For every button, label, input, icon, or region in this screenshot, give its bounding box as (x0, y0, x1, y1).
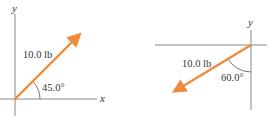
right-angle-label: 60.0° (221, 73, 244, 84)
left-magnitude-label: 10.0 lb (23, 50, 52, 61)
right-diagram (155, 30, 267, 110)
vector-diagrams (0, 0, 272, 123)
right-angle-arc (228, 59, 251, 73)
right-magnitude-label: 10.0 lb (182, 59, 211, 70)
left-y-axis-label: y (12, 3, 17, 14)
left-angle-label: 45.0° (42, 83, 65, 94)
left-x-axis-label: x (100, 93, 105, 104)
left-angle-arc (33, 81, 40, 99)
left-diagram (0, 14, 97, 116)
right-y-axis-label: y (248, 17, 253, 28)
